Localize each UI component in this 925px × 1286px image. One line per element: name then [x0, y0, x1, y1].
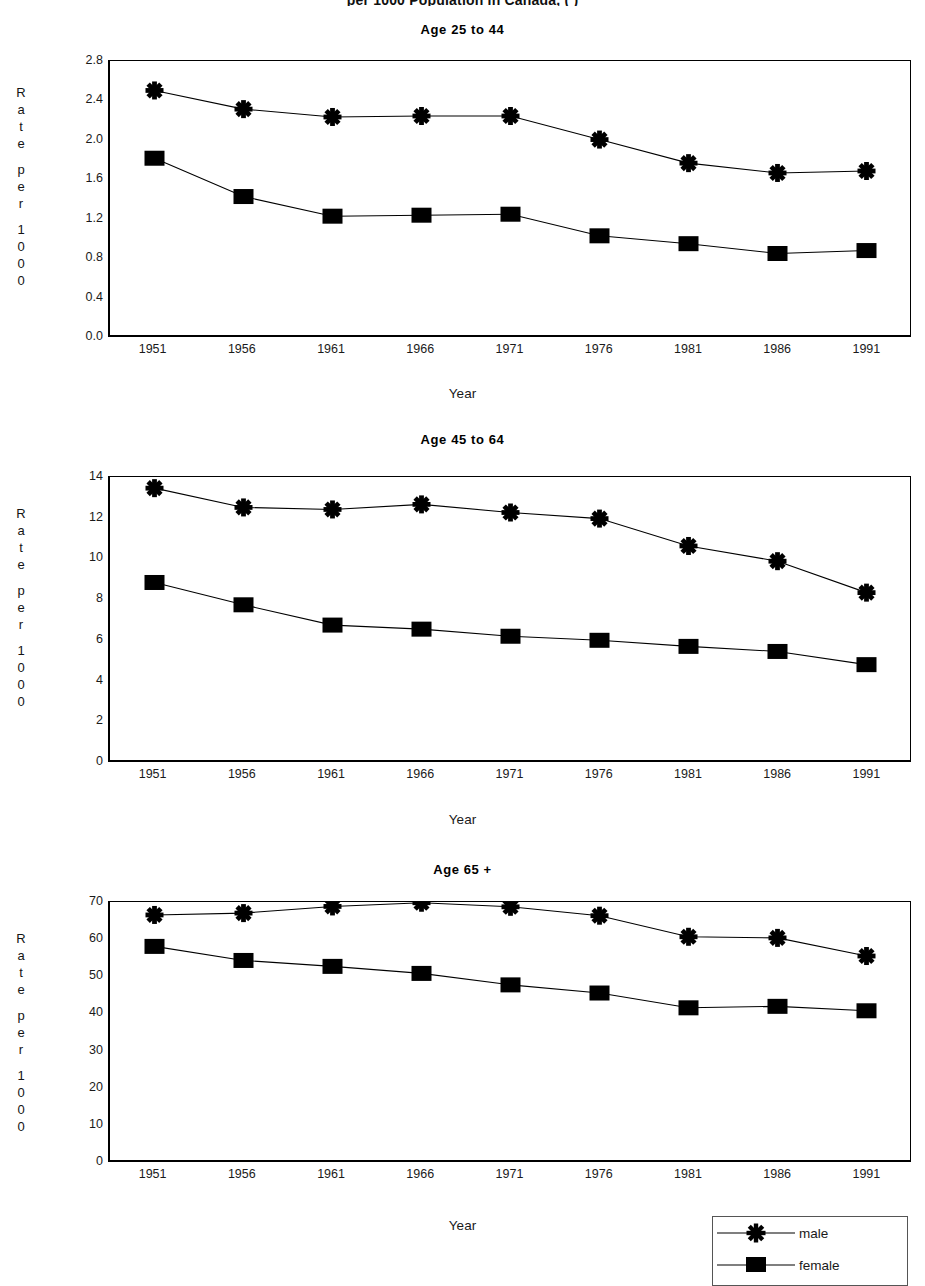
x-axis-tick-label: 1976	[569, 1168, 629, 1181]
square-marker	[501, 977, 521, 992]
y-axis-label-char: 0	[8, 1084, 34, 1101]
y-axis-label-char: 0	[8, 1101, 34, 1118]
star-marker	[146, 906, 164, 924]
square-marker	[323, 959, 343, 974]
y-axis-tick-label: 60	[43, 932, 103, 945]
y-axis-tick-label: 70	[43, 895, 103, 908]
star-marker	[680, 928, 698, 946]
x-axis-tick-label: 1971	[480, 768, 540, 781]
square-marker-icon	[713, 1250, 799, 1280]
y-axis-tick-label: 20	[43, 1081, 103, 1094]
star-marker	[502, 902, 520, 916]
y-axis-tick-label: 2.4	[43, 93, 103, 106]
y-axis-tick-label: 6	[43, 633, 103, 646]
x-axis-tick-label: 1951	[123, 343, 183, 356]
y-axis-label-age-65-plus: R a t e p e r 1 0 0 0	[8, 930, 34, 1135]
y-axis-tick-label: 8	[43, 592, 103, 605]
square-marker	[234, 953, 254, 968]
y-axis-label-char: t	[8, 964, 34, 981]
star-marker	[769, 929, 787, 947]
legend-item-female[interactable]: female	[713, 1249, 907, 1281]
y-axis-label-char: r	[8, 1041, 34, 1058]
plot-area-age-65-plus	[108, 901, 911, 1162]
x-axis-tick-label: 1956	[212, 768, 272, 781]
x-axis-tick-label: 1976	[569, 768, 629, 781]
x-axis-tick-label: 1981	[658, 768, 718, 781]
y-axis-label-gap	[8, 1058, 34, 1067]
star-marker	[235, 904, 253, 922]
y-axis-tick-label: 0.0	[43, 330, 103, 343]
y-axis-tick-label: 0	[43, 755, 103, 768]
x-axis-tick-label: 1966	[390, 768, 450, 781]
square-marker	[857, 1003, 877, 1018]
legend-label-male: male	[799, 1226, 828, 1241]
y-axis-tick-label: 50	[43, 969, 103, 982]
legend-label-female: female	[799, 1258, 840, 1273]
x-axis-tick-label: 1981	[658, 343, 718, 356]
y-axis-tick-label: 1.2	[43, 212, 103, 225]
y-axis-tick-label: 10	[43, 551, 103, 564]
x-axis-tick-label: 1991	[836, 768, 896, 781]
y-axis-label-char: p	[8, 1007, 34, 1024]
legend: male female	[712, 1216, 908, 1286]
x-axis-tick-label: 1971	[480, 343, 540, 356]
y-axis-label-gap	[8, 998, 34, 1007]
x-axis-tick-label: 1966	[390, 1168, 450, 1181]
star-marker-icon	[713, 1218, 799, 1248]
star-marker	[413, 902, 431, 912]
x-axis-tick-label: 1971	[480, 1168, 540, 1181]
y-axis-label-char: R	[8, 930, 34, 947]
y-axis-tick-label: 12	[43, 511, 103, 524]
y-axis-tick-label: 1.6	[43, 172, 103, 185]
y-axis-label-char: a	[8, 947, 34, 964]
star-marker	[324, 902, 342, 915]
y-axis-label-char: 1	[8, 1067, 34, 1084]
x-axis-tick-label: 1961	[301, 768, 361, 781]
y-axis-tick-label: 4	[43, 674, 103, 687]
y-axis-tick-label: 40	[43, 1006, 103, 1019]
x-axis-tick-label: 1986	[747, 1168, 807, 1181]
x-axis-tick-label: 1951	[123, 768, 183, 781]
y-axis-tick-label: 0.4	[43, 291, 103, 304]
legend-item-male[interactable]: male	[713, 1217, 907, 1249]
y-axis-tick-label: 2.0	[43, 133, 103, 146]
square-marker	[145, 939, 165, 954]
y-axis-tick-label: 14	[43, 470, 103, 483]
x-axis-tick-label: 1991	[836, 1168, 896, 1181]
x-axis-tick-label: 1986	[747, 343, 807, 356]
square-marker	[412, 966, 432, 981]
square-marker	[590, 986, 610, 1001]
square-marker	[679, 1000, 699, 1015]
y-axis-label-char: e	[8, 981, 34, 998]
panel-title-age-65-plus: Age 65 +	[0, 862, 925, 877]
x-axis-tick-label: 1966	[390, 343, 450, 356]
y-axis-tick-label: 0	[43, 1155, 103, 1168]
y-axis-tick-label: 10	[43, 1118, 103, 1131]
series-canvas-age-65-plus	[110, 902, 911, 1161]
y-axis-tick-label: 0.8	[43, 251, 103, 264]
x-axis-tick-label: 1961	[301, 1168, 361, 1181]
y-axis-tick-label: 2	[43, 714, 103, 727]
x-axis-tick-label: 1981	[658, 1168, 718, 1181]
x-axis-tick-label: 1991	[836, 343, 896, 356]
x-axis-tick-label: 1956	[212, 1168, 272, 1181]
y-axis-tick-label: 30	[43, 1044, 103, 1057]
y-axis-label-char: e	[8, 1024, 34, 1041]
star-marker	[858, 947, 876, 965]
x-axis-tick-label: 1986	[747, 768, 807, 781]
square-marker	[768, 999, 788, 1014]
star-marker	[591, 907, 609, 925]
y-axis-tick-label: 2.8	[43, 54, 103, 67]
y-axis-label-char: 0	[8, 1118, 34, 1135]
x-axis-tick-label: 1956	[212, 343, 272, 356]
x-axis-tick-label: 1976	[569, 343, 629, 356]
x-axis-tick-label: 1961	[301, 343, 361, 356]
x-axis-tick-label: 1951	[123, 1168, 183, 1181]
